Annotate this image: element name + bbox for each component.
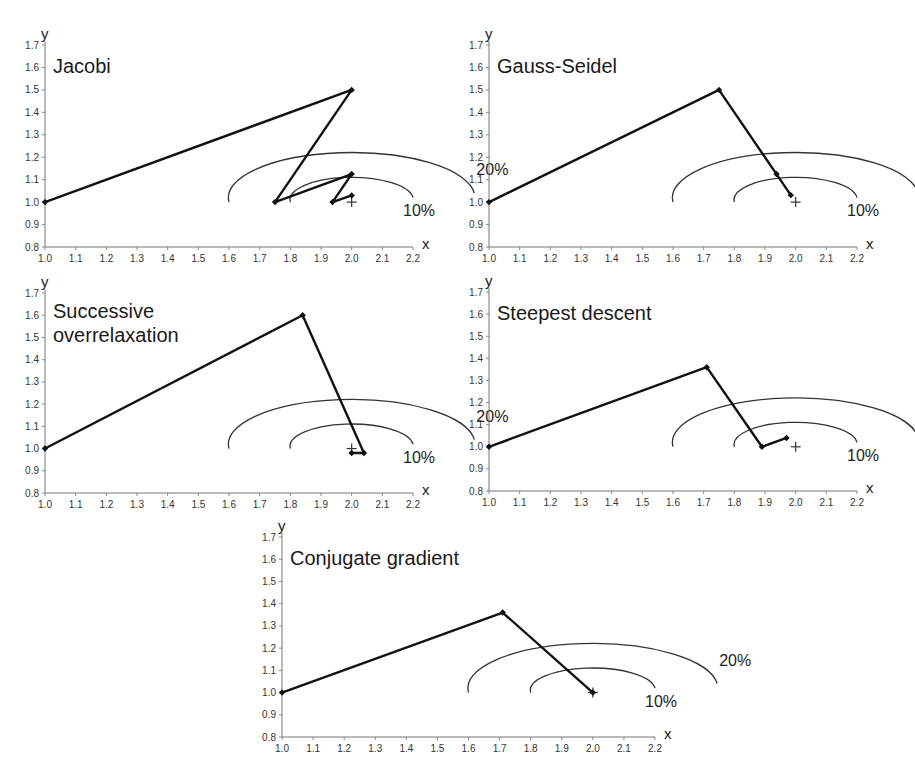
y-tick-label: 1.5 bbox=[25, 84, 39, 95]
x-tick-label: 1.9 bbox=[758, 497, 772, 508]
y-axis-label: y bbox=[278, 517, 286, 534]
x-tick-label: 1.9 bbox=[314, 253, 328, 264]
x-tick-label: 1.2 bbox=[99, 253, 113, 264]
y-tick-label: 1.4 bbox=[25, 107, 39, 118]
x-tick-label: 1.5 bbox=[635, 497, 649, 508]
x-tick-label: 1.9 bbox=[314, 499, 328, 510]
x-tick-label: 1.1 bbox=[69, 253, 83, 264]
chart-title: Steepest descent bbox=[497, 302, 652, 324]
data-point-marker bbox=[348, 192, 354, 198]
y-tick-label: 1.4 bbox=[469, 353, 483, 364]
y-tick-label: 1.1 bbox=[469, 419, 483, 430]
iterate-path bbox=[282, 613, 593, 693]
x-tick-label: 1.7 bbox=[493, 743, 507, 754]
y-tick-label: 1.0 bbox=[469, 441, 483, 452]
y-tick-label: 1.7 bbox=[25, 288, 39, 299]
x-tick-label: 2.0 bbox=[789, 253, 803, 264]
x-axis-label: x bbox=[866, 235, 874, 252]
y-tick-label: 1.2 bbox=[262, 643, 276, 654]
y-tick-label: 1.3 bbox=[25, 129, 39, 140]
chart-steepest-descent: 1.01.11.21.31.41.51.61.71.81.92.02.12.20… bbox=[469, 272, 915, 508]
x-tick-label: 1.8 bbox=[524, 743, 538, 754]
x-tick-label: 1.9 bbox=[555, 743, 569, 754]
x-tick-label: 1.1 bbox=[306, 743, 320, 754]
chart-title: Jacobi bbox=[53, 55, 111, 77]
x-tick-label: 2.1 bbox=[819, 497, 833, 508]
x-axis-label: x bbox=[866, 479, 874, 496]
data-point-marker bbox=[783, 435, 789, 441]
contour-label: 10% bbox=[403, 449, 435, 466]
x-tick-label: 1.1 bbox=[513, 253, 527, 264]
x-tick-label: 1.7 bbox=[697, 253, 711, 264]
chart-conjugate-gradient: 1.01.11.21.31.41.51.61.71.81.92.02.12.20… bbox=[262, 517, 751, 754]
contour-label: 10% bbox=[645, 693, 677, 710]
x-tick-label: 1.8 bbox=[283, 499, 297, 510]
x-tick-label: 1.6 bbox=[222, 499, 236, 510]
y-tick-label: 0.8 bbox=[262, 732, 276, 743]
data-point-marker bbox=[486, 444, 492, 450]
chart-title: Conjugate gradient bbox=[290, 547, 459, 569]
x-tick-label: 1.7 bbox=[253, 499, 267, 510]
x-tick-label: 1.4 bbox=[605, 253, 619, 264]
x-tick-label: 1.5 bbox=[430, 743, 444, 754]
x-tick-label: 1.3 bbox=[368, 743, 382, 754]
y-tick-label: 1.6 bbox=[262, 554, 276, 565]
y-tick-label: 1.1 bbox=[25, 174, 39, 185]
y-tick-label: 1.0 bbox=[25, 443, 39, 454]
x-tick-label: 2.0 bbox=[345, 253, 359, 264]
x-tick-label: 1.8 bbox=[727, 253, 741, 264]
y-tick-label: 1.7 bbox=[469, 40, 483, 51]
contour-label: 10% bbox=[847, 447, 879, 464]
x-tick-label: 1.5 bbox=[191, 499, 205, 510]
x-tick-label: 1.6 bbox=[666, 253, 680, 264]
y-tick-label: 1.1 bbox=[262, 665, 276, 676]
y-tick-label: 1.6 bbox=[25, 62, 39, 73]
data-point-marker bbox=[42, 199, 48, 205]
x-tick-label: 2.0 bbox=[345, 499, 359, 510]
y-tick-label: 1.2 bbox=[25, 152, 39, 163]
contour-label: 10% bbox=[403, 202, 435, 219]
y-tick-label: 0.9 bbox=[25, 219, 39, 230]
x-tick-label: 1.3 bbox=[130, 253, 144, 264]
y-tick-label: 0.8 bbox=[469, 486, 483, 497]
y-tick-label: 0.8 bbox=[469, 242, 483, 253]
x-tick-label: 2.1 bbox=[375, 499, 389, 510]
y-axis-label: y bbox=[485, 25, 493, 42]
x-tick-label: 1.7 bbox=[697, 497, 711, 508]
x-tick-label: 1.4 bbox=[161, 253, 175, 264]
y-axis-label: y bbox=[41, 273, 49, 290]
chart-title: Successive bbox=[53, 300, 154, 322]
x-tick-label: 1.8 bbox=[727, 497, 741, 508]
y-tick-label: 0.9 bbox=[469, 463, 483, 474]
x-axis-label: x bbox=[422, 235, 430, 252]
chart-gauss-seidel: 1.01.11.21.31.41.51.61.71.81.92.02.12.20… bbox=[469, 25, 915, 264]
x-tick-label: 1.6 bbox=[666, 497, 680, 508]
x-axis-label: x bbox=[422, 481, 430, 498]
x-tick-label: 2.1 bbox=[617, 743, 631, 754]
x-tick-label: 1.4 bbox=[399, 743, 413, 754]
contour-label: 10% bbox=[847, 202, 879, 219]
y-tick-label: 1.3 bbox=[469, 129, 483, 140]
y-tick-label: 1.5 bbox=[25, 332, 39, 343]
x-tick-label: 1.3 bbox=[130, 499, 144, 510]
y-tick-label: 1.4 bbox=[469, 107, 483, 118]
y-tick-label: 0.8 bbox=[25, 488, 39, 499]
y-axis-label: y bbox=[485, 272, 493, 289]
y-tick-label: 1.2 bbox=[25, 399, 39, 410]
x-tick-label: 2.1 bbox=[819, 253, 833, 264]
x-tick-label: 1.0 bbox=[275, 743, 289, 754]
x-tick-label: 1.8 bbox=[283, 253, 297, 264]
x-tick-label: 2.0 bbox=[789, 497, 803, 508]
y-tick-label: 0.8 bbox=[25, 242, 39, 253]
figure-canvas: 1.01.11.21.31.41.51.61.71.81.92.02.12.20… bbox=[0, 0, 915, 782]
x-tick-label: 1.0 bbox=[38, 253, 52, 264]
y-tick-label: 1.1 bbox=[469, 174, 483, 185]
x-tick-label: 2.2 bbox=[406, 253, 420, 264]
x-tick-label: 1.2 bbox=[99, 499, 113, 510]
y-tick-label: 1.0 bbox=[25, 197, 39, 208]
x-axis-label: x bbox=[664, 725, 672, 742]
y-tick-label: 1.2 bbox=[469, 152, 483, 163]
x-tick-label: 1.1 bbox=[69, 499, 83, 510]
y-tick-label: 1.0 bbox=[469, 197, 483, 208]
x-tick-label: 1.6 bbox=[462, 743, 476, 754]
